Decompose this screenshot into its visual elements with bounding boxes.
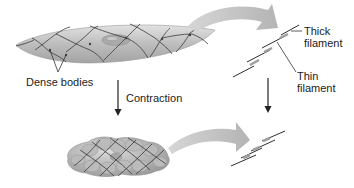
dense-bodies-label: Dense bodies xyxy=(26,76,93,88)
thick-filament-label-line2: filament xyxy=(304,37,343,49)
thin-filament-pointer xyxy=(277,42,296,72)
thick-filament-label-line1: Thick xyxy=(304,25,330,37)
nucleus xyxy=(102,35,130,46)
thin-filament-label-line1: Thin xyxy=(297,70,318,82)
curved-arrow-top xyxy=(188,4,278,32)
curved-arrow-bottom xyxy=(168,122,250,154)
contraction-arrow xyxy=(115,80,122,116)
contraction-arrow-right xyxy=(265,78,272,113)
relaxed-cell xyxy=(16,24,215,63)
relaxed-filaments xyxy=(233,25,299,77)
contraction-label: Contraction xyxy=(126,92,182,104)
thin-filament-label-line2: filament xyxy=(297,82,336,94)
contracted-cell xyxy=(68,137,170,177)
